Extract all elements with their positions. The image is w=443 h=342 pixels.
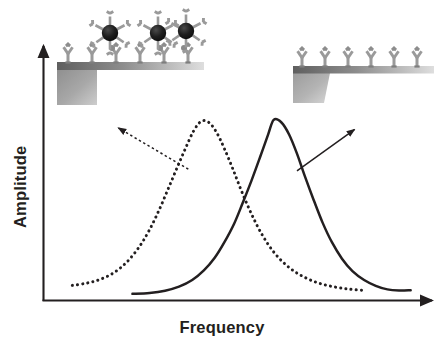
antibody-icon — [296, 46, 307, 67]
axes-group — [43, 46, 433, 301]
antibody-icon — [86, 42, 97, 63]
right-inset-antibody-row — [296, 46, 422, 67]
antibody-icon — [319, 46, 330, 67]
left-inset-loaded-cantilever — [57, 8, 208, 105]
figure-root: Amplitude Frequency — [0, 0, 443, 342]
left-inset-beam — [57, 62, 204, 70]
right-inset-support-block — [293, 73, 330, 103]
antibody-icon — [388, 46, 399, 67]
right-inset-beam — [293, 66, 434, 74]
arrow-to-bare-cantilever — [297, 130, 354, 171]
y-axis-label: Amplitude — [11, 146, 29, 228]
left-inset-support-block — [57, 69, 97, 105]
antibody-icon — [134, 42, 145, 63]
figure-canvas: Amplitude Frequency — [0, 0, 443, 342]
nanoparticle-conjugate-icon — [164, 8, 208, 54]
right-inset-bare-cantilever — [293, 46, 434, 103]
antibody-icon — [365, 46, 376, 67]
arrow-to-loaded-cantilever — [119, 128, 189, 169]
curve-bare-cantilever — [132, 119, 410, 294]
x-axis-label: Frequency — [179, 318, 265, 336]
curves-group — [72, 119, 410, 294]
antibody-icon — [342, 46, 353, 67]
antibody-icon — [62, 42, 73, 63]
curve-mass-loaded — [72, 121, 362, 291]
antibody-icon — [411, 46, 422, 67]
annotation-arrows-group — [119, 128, 355, 171]
